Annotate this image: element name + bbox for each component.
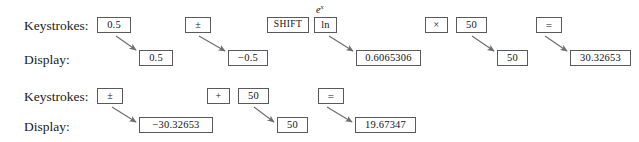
keystroke-key[interactable]: = — [536, 17, 562, 33]
display-value: −30.32653 — [139, 117, 213, 133]
flow-arrow — [327, 107, 352, 122]
keystroke-diagram: Keystrokes: Display: Keystrokes: Display… — [0, 0, 639, 142]
display-value: −0.5 — [228, 50, 268, 66]
display-value: 50 — [277, 117, 308, 133]
row1-display-label: Display: — [24, 53, 70, 67]
keystroke-key[interactable]: + — [207, 88, 230, 104]
row2-keystrokes-label: Keystrokes: — [24, 90, 89, 104]
flow-arrow — [112, 107, 136, 122]
keystroke-key[interactable]: ln — [314, 17, 337, 33]
display-value: 30.32653 — [570, 50, 631, 66]
display-value: 50 — [497, 50, 528, 66]
display-value: 0.5 — [139, 50, 173, 66]
flow-arrow — [254, 107, 274, 122]
flow-arrow — [472, 36, 494, 51]
keystroke-key[interactable]: ± — [185, 17, 211, 33]
flow-arrow — [199, 36, 225, 51]
flow-arrow — [545, 36, 567, 51]
flow-arrow — [329, 36, 353, 51]
keystroke-key[interactable]: ± — [97, 88, 123, 104]
keystroke-key[interactable]: 50 — [238, 88, 269, 104]
keystroke-key[interactable]: SHIFT — [267, 17, 309, 33]
keystroke-key[interactable]: = — [318, 88, 344, 104]
keystroke-key[interactable]: 50 — [456, 17, 487, 33]
keystroke-key[interactable]: 0.5 — [97, 17, 131, 33]
keystroke-key[interactable]: × — [425, 17, 448, 33]
key-superscript-label: ex — [316, 4, 324, 15]
display-value: 0.6065306 — [356, 50, 421, 66]
flow-arrow — [116, 36, 136, 50]
row2-display-label: Display: — [24, 120, 70, 134]
row1-keystrokes-label: Keystrokes: — [24, 19, 89, 33]
display-value: 19.67347 — [355, 117, 416, 133]
